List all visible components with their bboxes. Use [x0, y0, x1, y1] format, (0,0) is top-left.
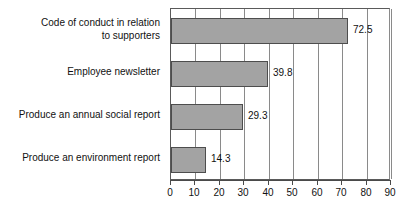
category-axis-labels: Code of conduct in relation to supporter… — [0, 8, 165, 180]
tick-mark-40 — [268, 181, 269, 185]
category-label-1: Employee newsletter — [0, 66, 160, 79]
tick-mark-30 — [243, 181, 244, 185]
x-tick-label: 70 — [335, 187, 346, 198]
category-label-0: Code of conduct in relation to supporter… — [0, 17, 160, 42]
tick-mark-60 — [317, 181, 318, 185]
value-label: 14.3 — [211, 154, 230, 164]
tick-mark-90 — [390, 181, 391, 185]
value-label: 29.3 — [248, 111, 267, 121]
tick-mark-0 — [170, 181, 171, 185]
x-tick-label: 50 — [286, 187, 297, 198]
bar — [171, 61, 268, 87]
value-label: 39.8 — [273, 68, 292, 78]
bar — [171, 147, 206, 173]
value-label: 72.5 — [353, 25, 372, 35]
tick-mark-80 — [366, 181, 367, 185]
x-tick-label: 20 — [213, 187, 224, 198]
x-axis-line — [170, 180, 391, 181]
bar-chart: Code of conduct in relation to supporter… — [0, 0, 406, 205]
x-tick-label: 30 — [237, 187, 248, 198]
category-label-3: Produce an environment report — [0, 152, 160, 165]
category-label-2: Produce an annual social report — [0, 109, 160, 122]
tick-mark-70 — [341, 181, 342, 185]
bar — [171, 104, 243, 130]
x-tick-label: 0 — [167, 187, 173, 198]
tick-mark-10 — [194, 181, 195, 185]
tick-mark-20 — [219, 181, 220, 185]
x-tick-label: 90 — [384, 187, 395, 198]
gridline-90 — [391, 9, 392, 179]
x-tick-label: 10 — [188, 187, 199, 198]
bar — [171, 18, 348, 44]
x-tick-label: 40 — [262, 187, 273, 198]
x-tick-label: 60 — [311, 187, 322, 198]
x-tick-label: 80 — [360, 187, 371, 198]
tick-mark-50 — [292, 181, 293, 185]
